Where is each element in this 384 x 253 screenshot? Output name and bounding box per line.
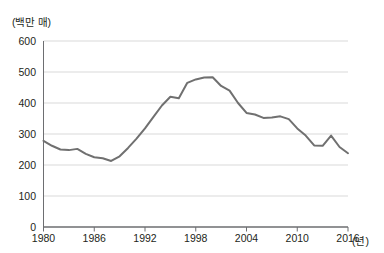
y-tick-label: 300 (2, 129, 36, 140)
x-tick-label: 1998 (176, 233, 216, 244)
x-tick-label: 1992 (125, 233, 165, 244)
chart-plot-area (0, 0, 384, 253)
y-tick-label: 100 (2, 191, 36, 202)
y-tick-label: 400 (2, 98, 36, 109)
x-axis-unit-label: (년) (352, 233, 369, 248)
y-tick-label: 600 (2, 36, 36, 47)
x-tick-label: 1986 (74, 233, 114, 244)
x-tick-label: 1980 (24, 233, 64, 244)
x-tick-label: 2010 (277, 233, 317, 244)
y-tick-label: 200 (2, 160, 36, 171)
data-series-line (44, 77, 349, 161)
line-chart: (백만 매) 0100200300400500600 1980198619921… (0, 0, 384, 253)
y-tick-label: 500 (2, 67, 36, 78)
gridlines-group (44, 41, 349, 196)
x-tick-label: 2004 (227, 233, 267, 244)
y-tick-label: 0 (2, 222, 36, 233)
